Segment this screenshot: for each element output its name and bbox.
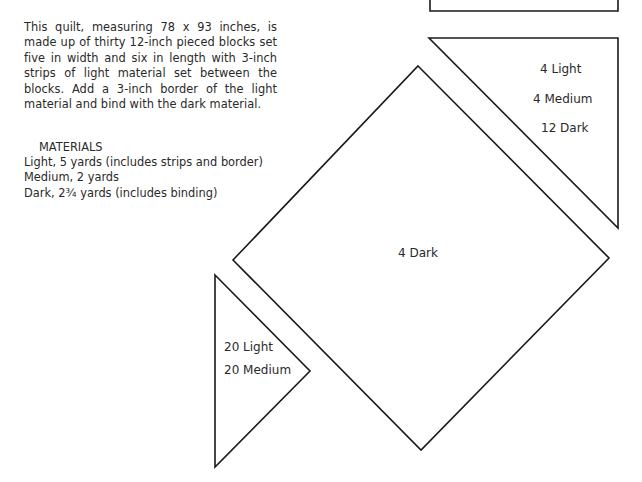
large-triangle-piece [429,38,618,228]
small-triangle-label-medium: 20 Medium [224,363,291,377]
large-triangle-label-medium: 4 Medium [533,92,592,106]
partial-rectangle-piece [430,0,618,11]
large-triangle-label-dark: 12 Dark [541,121,589,135]
square-label-dark: 4 Dark [398,246,438,260]
small-triangle-label-light: 20 Light [224,340,273,354]
large-triangle-label-light: 4 Light [540,62,581,76]
